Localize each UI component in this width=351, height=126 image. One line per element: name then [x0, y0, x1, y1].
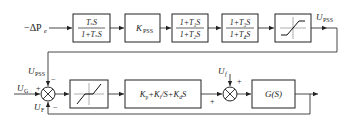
lead-lag-block-2: 1+T₃S 1+T₄S — [222, 14, 258, 42]
svg-text:F: F — [41, 107, 45, 113]
gain-kpss-block: K PSS — [125, 14, 160, 42]
svg-text:−ΔP: −ΔP — [24, 22, 42, 33]
dead-zone-block — [70, 80, 108, 108]
sum1-ug-label: U G + — [17, 83, 41, 94]
svg-text:−: − — [53, 103, 58, 112]
svg-text:1+TₛS: 1+TₛS — [81, 30, 102, 39]
svg-text:G: G — [24, 88, 29, 94]
svg-text:U: U — [218, 66, 225, 76]
pss-block-diagram: −ΔP e TₛS 1+TₛS K PSS 1+T₁S 1+T₂S 1+T₃S … — [0, 0, 351, 126]
svg-text:1+T₁S: 1+T₁S — [180, 18, 201, 27]
svg-text:TₛS: TₛS — [86, 18, 97, 27]
limiter-block — [275, 14, 311, 42]
svg-text:1+T₄S: 1+T₄S — [230, 30, 251, 39]
svg-text:U: U — [17, 83, 24, 93]
sum1-uf-label: U F − — [34, 102, 58, 113]
summing-junction-2 — [223, 87, 237, 101]
svg-text:U: U — [34, 102, 41, 112]
svg-text:−: − — [51, 75, 56, 84]
lead-lag-block-1: 1+T₁S 1+T₂S — [172, 14, 208, 42]
plant-gs-block: G(S) — [252, 80, 295, 108]
svg-text:e: e — [44, 27, 47, 34]
svg-text:U: U — [28, 66, 35, 76]
svg-text:+: + — [36, 84, 41, 93]
svg-text:+: + — [237, 77, 242, 86]
input-label-delta-pe: −ΔP e — [24, 22, 47, 34]
svg-text:U: U — [316, 12, 323, 22]
svg-text:K: K — [135, 23, 143, 33]
svg-text:PSS: PSS — [323, 17, 333, 23]
svg-text:1+T₂S: 1+T₂S — [180, 30, 201, 39]
svg-text:PSS: PSS — [35, 71, 45, 77]
svg-text:G(S): G(S) — [265, 89, 282, 99]
washout-block: TₛS 1+TₛS — [73, 14, 110, 42]
svg-text:1+T₃S: 1+T₃S — [230, 18, 251, 27]
summing-junction-1 — [41, 87, 55, 101]
sum1-upss-label: U PSS − — [28, 66, 56, 84]
svg-text:PSS: PSS — [143, 28, 153, 34]
sum2-left-sign: + — [210, 97, 215, 106]
pid-block: Kp+Ki/S+KdS — [125, 80, 201, 108]
svg-text:f: f — [225, 71, 228, 77]
upss-output-label: U PSS — [316, 12, 333, 23]
